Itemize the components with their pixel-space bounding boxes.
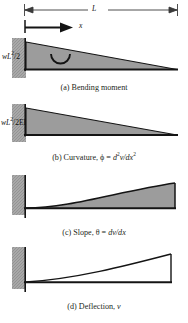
dimension-label-L: L <box>0 5 188 13</box>
panel-b-svg <box>0 104 188 148</box>
panel-c-svg <box>0 174 188 224</box>
panel-c-caption: (c) Slope, θ = dv/dx <box>0 228 188 238</box>
panel-b-curvature: wL2/2EI <box>0 104 188 148</box>
panel-d-svg <box>0 246 188 298</box>
wall-support-d <box>12 247 26 289</box>
panel-a-caption: (a) Bending moment <box>0 83 188 93</box>
x-axis-label: x <box>79 22 82 30</box>
x-axis-arrowhead <box>60 23 73 33</box>
curvature-diagram-fill-b <box>26 108 177 135</box>
dimension-row: L <box>0 0 188 20</box>
panel-d-deflection <box>0 246 188 298</box>
moment-diagram-fill-a <box>26 42 177 70</box>
panel-a-bending-moment: wL2/2 <box>0 36 188 82</box>
wall-support-c <box>12 175 26 215</box>
panel-b-caption: (b) Curvature, ϕ = d2v/dx2 <box>0 153 188 163</box>
panel-c-slope <box>0 174 188 224</box>
panel-b-value-label: wL2/2EI <box>1 119 26 127</box>
deflection-curve-d <box>26 254 171 282</box>
panel-a-value-label: wL2/2 <box>2 53 20 61</box>
panel-d-caption: (d) Deflection, v <box>0 302 188 312</box>
panel-a-svg <box>0 36 188 82</box>
